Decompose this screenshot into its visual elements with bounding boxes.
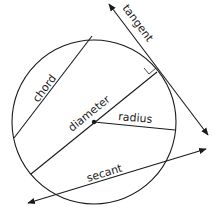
radius-label: radius <box>118 110 153 126</box>
tangent-label: tangent <box>120 2 157 45</box>
chord-label: chord <box>30 72 59 105</box>
secant-label: secant <box>85 162 124 185</box>
center-point <box>92 120 96 124</box>
right-angle-marker <box>144 68 156 74</box>
circle-diagram: tangent chord diameter radius secant <box>0 0 214 216</box>
